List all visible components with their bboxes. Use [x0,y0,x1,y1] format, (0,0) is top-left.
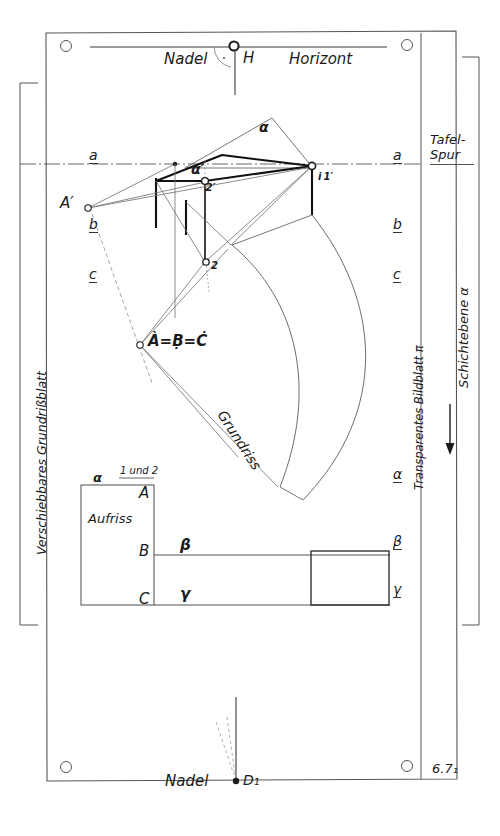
elevation-point-b: B [139,544,149,559]
caption-tafel-spur: Tafel-Spur [430,133,474,165]
inclined-dashed-line [92,214,152,383]
label-apex-h: H [243,51,254,66]
trace-label-right-c: c [393,267,401,283]
elevation-point-c: C [139,592,149,607]
label-alpha-apex: α [259,120,269,134]
trace-label-right-a: a [393,148,402,164]
sheet-frame [46,31,457,781]
label-nadel-bottom: Nadel [165,774,208,789]
elevation-alpha-label: α [93,471,102,484]
label-horizont: Horizont [289,52,352,67]
trace-label-left-c: c [89,267,97,283]
trace-label-right-b: b [393,217,402,233]
label-i-equals-one-prime: i 1′ [318,172,333,182]
layer-label-gamma: γ [393,582,401,598]
label-point-two: 2 [211,261,218,271]
label-alpha-prime: α′ [191,162,204,176]
figure-page: Nadel H Horizont a b c a b c α β γ A′ α′… [0,0,500,836]
corner-holes [61,40,413,773]
label-two-prime: 2′ [205,182,216,193]
trace-label-left-b: b [89,217,98,233]
caption-schichtebene-alpha: Schichtebene α [457,287,470,388]
caption-verschiebbares-grundrissblatt: Verschiebbares Grundrißblatt [36,371,49,555]
label-abc-coincident: À=Ḅ=Ċ [148,334,207,349]
label-d1: D₁ [243,773,259,787]
caption-transparentes-bildblatt: Transparentes Bildblatt π [414,345,426,490]
elevation-gamma: γ [180,587,190,602]
elevation-block [81,478,390,605]
elevation-aufriss: Aufriss [88,512,132,525]
bottom-needle-group [216,697,239,784]
trace-label-left-a: a [89,148,98,164]
layer-label-alpha: α [393,467,402,483]
alpha-triangle [185,118,313,168]
label-nadel-top: Nadel [164,52,207,67]
elevation-point-a: A [139,486,149,501]
elevation-one-und-two: 1 und 2 [120,466,158,476]
figure-number: 6.7₁ [432,762,458,775]
schichtebene-arrow [446,404,455,455]
caption-tafel-spur-text: Tafel-Spur [430,133,474,165]
elevation-beta: β [180,538,191,553]
label-a-prime: A′ [60,196,74,211]
layer-label-beta: β [393,534,402,550]
